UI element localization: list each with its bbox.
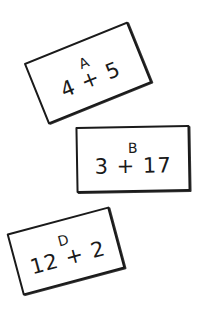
card-expression: 4 + 5 xyxy=(57,58,123,102)
card-a: A 4 + 5 xyxy=(24,21,153,124)
card-b: B 3 + 17 xyxy=(75,125,190,193)
card-expression: 3 + 17 xyxy=(94,154,171,177)
card-d: D 12 + 2 xyxy=(7,206,126,295)
